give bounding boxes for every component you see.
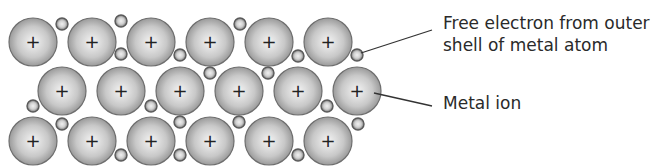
- metal-ion-leader-line: [374, 93, 432, 106]
- metal-ion: +: [68, 117, 116, 165]
- free-electron: [174, 149, 186, 161]
- plus-sign-icon: +: [84, 130, 99, 151]
- plus-sign-icon: +: [25, 130, 40, 151]
- metal-ion: +: [215, 67, 263, 115]
- plus-sign-icon: +: [113, 80, 128, 101]
- plus-sign-icon: +: [143, 130, 158, 151]
- free-electron: [321, 100, 333, 112]
- free-electron: [234, 18, 246, 30]
- plus-sign-icon: +: [261, 31, 276, 52]
- plus-sign-icon: +: [25, 31, 40, 52]
- plus-sign-icon: +: [54, 80, 69, 101]
- metal-ion: +: [304, 18, 352, 66]
- plus-sign-icon: +: [143, 31, 158, 52]
- free-electron: [292, 149, 304, 161]
- metal-ion: +: [304, 117, 352, 165]
- plus-sign-icon: +: [320, 31, 335, 52]
- free-electron: [56, 118, 68, 130]
- free-electron-label-line-1: Free electron from outer: [443, 12, 650, 34]
- free-electron-label-line-2: shell of metal atom: [443, 34, 650, 56]
- metal-ion: +: [186, 18, 234, 66]
- plus-sign-icon: +: [261, 130, 276, 151]
- free-electron: [352, 118, 364, 130]
- metal-ion: +: [38, 67, 86, 115]
- free-electron: [351, 49, 363, 61]
- free-electron-label: Free electron from outer shell of metal …: [443, 12, 650, 56]
- free-electron: [292, 50, 304, 62]
- plus-sign-icon: +: [202, 31, 217, 52]
- metal-ion: +: [68, 18, 116, 66]
- metal-ion: +: [333, 67, 381, 115]
- free-electron: [174, 116, 186, 128]
- plus-sign-icon: +: [172, 80, 187, 101]
- free-electron: [174, 49, 186, 61]
- free-electron: [262, 67, 274, 79]
- metal-ion: +: [97, 67, 145, 115]
- metal-ion: +: [245, 117, 293, 165]
- free-electron: [233, 116, 245, 128]
- free-electron: [115, 48, 127, 60]
- plus-sign-icon: +: [290, 80, 305, 101]
- plus-sign-icon: +: [231, 80, 246, 101]
- plus-sign-icon: +: [320, 130, 335, 151]
- free-electron: [27, 100, 39, 112]
- metal-ion: +: [9, 18, 57, 66]
- free-electron: [115, 15, 127, 27]
- plus-sign-icon: +: [202, 130, 217, 151]
- metal-ion: +: [127, 117, 175, 165]
- metal-ions: ++++++++++++++++++: [9, 18, 381, 165]
- free-electron: [145, 100, 157, 112]
- metal-ion: +: [274, 67, 322, 115]
- metal-ion: +: [9, 117, 57, 165]
- free-electron: [115, 149, 127, 161]
- metal-ion: +: [156, 67, 204, 115]
- metal-ion-label-line-1: Metal ion: [443, 92, 521, 114]
- plus-sign-icon: +: [349, 80, 364, 101]
- metal-ion-label: Metal ion: [443, 92, 521, 114]
- metal-ion: +: [245, 18, 293, 66]
- free-electron: [204, 67, 216, 79]
- metal-ion: +: [127, 18, 175, 66]
- metallic-bonding-diagram: ++++++++++++++++++ Free electron from ou…: [0, 0, 671, 167]
- plus-sign-icon: +: [84, 31, 99, 52]
- metal-ion: +: [186, 117, 234, 165]
- free-electron-leader-line: [361, 30, 432, 53]
- free-electron: [56, 18, 68, 30]
